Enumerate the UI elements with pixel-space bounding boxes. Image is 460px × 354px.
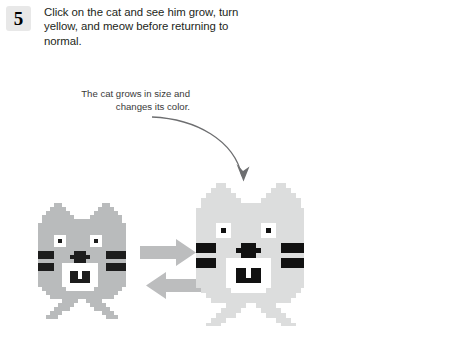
expert-tips-panel: EXPERT TIPS Sound blocks There are two v…	[318, 0, 460, 354]
step-number-badge: 5	[6, 6, 31, 31]
scratch-cat-normal	[38, 203, 126, 319]
book-page-spread: 5 Click on the cat and see him grow, tur…	[0, 0, 460, 354]
arrow-right-icon	[140, 239, 196, 266]
scratch-cat-grown-yellow	[196, 183, 304, 326]
arrow-left-icon	[146, 272, 202, 299]
curved-arrow-icon	[150, 100, 280, 190]
instruction-column: 5 Click on the cat and see him grow, tur…	[0, 0, 318, 354]
step-instruction-text: Click on the cat and see him grow, turn …	[44, 5, 259, 48]
transform-arrows	[138, 238, 204, 304]
